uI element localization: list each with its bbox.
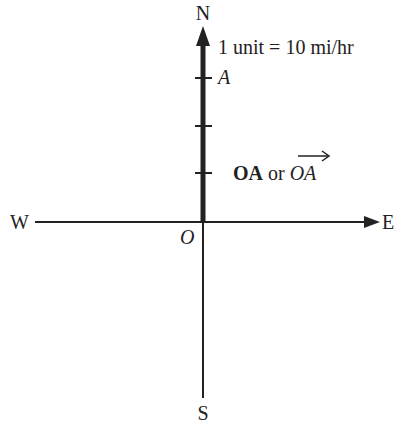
vector-label-italic: OA (290, 162, 317, 184)
vector-label-connector: or (263, 162, 290, 184)
north-label: N (196, 2, 210, 24)
scale-label: 1 unit = 10 mi/hr (218, 36, 354, 58)
north-arrowhead-icon (196, 26, 210, 46)
origin-label: O (180, 226, 194, 248)
west-label: W (10, 211, 29, 233)
east-label: E (382, 211, 394, 233)
vector-label-bold: OA (233, 162, 264, 184)
vector-label: OA or OA (233, 162, 317, 184)
east-arrowhead-icon (364, 216, 380, 228)
vector-diagram: N S W E O A 1 unit = 10 mi/hr OA or OA (0, 0, 398, 428)
south-label: S (197, 402, 208, 424)
point-a-label: A (216, 66, 231, 88)
